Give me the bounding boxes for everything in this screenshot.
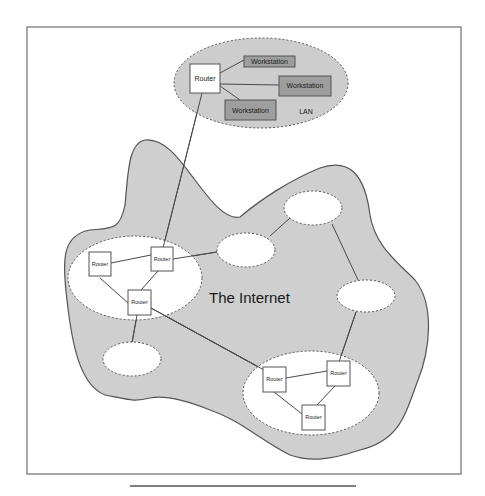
br-router-1: Router bbox=[263, 367, 286, 392]
left-router-1-label: Router bbox=[92, 261, 109, 267]
internet-title: The Internet bbox=[209, 289, 291, 306]
network-oval-top-right bbox=[284, 191, 342, 225]
br-router-3: Router bbox=[302, 405, 325, 430]
br-router-2: Router bbox=[327, 361, 350, 386]
left-router-1: Router bbox=[89, 252, 111, 276]
lan-router: Router bbox=[190, 64, 220, 93]
workstation-2-label: Workstation bbox=[287, 82, 324, 89]
br-router-3-label: Router bbox=[305, 414, 322, 420]
lan-router-label: Router bbox=[194, 75, 216, 82]
lan-label: LAN bbox=[299, 108, 313, 115]
network-oval-middle bbox=[217, 233, 275, 267]
workstation-3-label: Workstation bbox=[232, 107, 269, 114]
network-oval-bottom-left bbox=[103, 342, 161, 376]
network-diagram: Router Workstation Workstation Workstati… bbox=[0, 0, 485, 496]
left-router-2: Router bbox=[151, 247, 173, 271]
left-router-3: Router bbox=[128, 290, 151, 315]
left-router-2-label: Router bbox=[154, 256, 171, 262]
workstation-1: Workstation bbox=[244, 56, 295, 67]
br-router-2-label: Router bbox=[330, 370, 347, 376]
br-router-1-label: Router bbox=[266, 376, 283, 382]
network-oval-right bbox=[337, 280, 395, 312]
workstation-3: Workstation bbox=[225, 100, 276, 120]
workstation-2: Workstation bbox=[279, 76, 331, 96]
workstation-1-label: Workstation bbox=[251, 58, 288, 65]
left-router-3-label: Router bbox=[131, 299, 148, 305]
